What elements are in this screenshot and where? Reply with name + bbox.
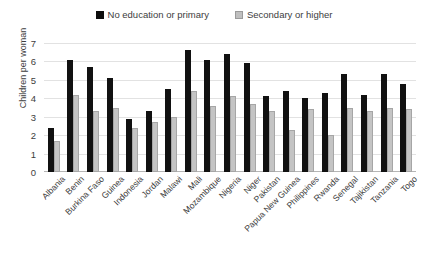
y-tick-label-7: 7	[12, 39, 36, 48]
bar-secondary-or-higher	[73, 95, 79, 172]
bar-group	[357, 43, 377, 172]
bar-secondary-or-higher	[328, 135, 334, 172]
bar-secondary-or-higher	[289, 130, 295, 172]
bar-group	[338, 43, 358, 172]
bar-secondary-or-higher	[152, 122, 158, 172]
legend-entry-secondary-or-higher: Secondary or higher	[235, 10, 333, 20]
plot-area: 01234567	[44, 43, 416, 172]
chart-legend: No education or primary Secondary or hig…	[0, 8, 428, 22]
bar-group	[240, 43, 260, 172]
bar-group	[201, 43, 221, 172]
bar-secondary-or-higher	[54, 141, 60, 172]
bar-secondary-or-higher	[132, 128, 138, 172]
bar-group	[220, 43, 240, 172]
y-tick-label-1: 1	[12, 150, 36, 159]
bar-group	[103, 43, 123, 172]
bar-secondary-or-higher	[308, 109, 314, 172]
bar-group	[161, 43, 181, 172]
bar-group	[299, 43, 319, 172]
legend-swatch-dark-square-icon	[96, 11, 104, 19]
bar-group	[64, 43, 84, 172]
legend-label-series-1: No education or primary	[108, 10, 209, 20]
bar-group	[396, 43, 416, 172]
x-tick-label: Togo	[399, 174, 419, 194]
y-tick-label-4: 4	[12, 94, 36, 103]
bar-group	[44, 43, 64, 172]
legend-label-series-2: Secondary or higher	[247, 10, 333, 20]
bar-group	[83, 43, 103, 172]
bar-chart: No education or primary Secondary or hig…	[0, 0, 428, 267]
y-tick-label-5: 5	[12, 76, 36, 85]
legend-entry-no-education-or-primary: No education or primary	[96, 10, 209, 20]
x-axis-labels: AlbaniaBeninBurkina FasoGuineaIndonesiaJ…	[44, 174, 416, 264]
bar-secondary-or-higher	[387, 108, 393, 173]
bar-secondary-or-higher	[191, 91, 197, 172]
y-tick-label-6: 6	[12, 57, 36, 66]
bar-group	[122, 43, 142, 172]
bar-group	[142, 43, 162, 172]
bar-secondary-or-higher	[250, 104, 256, 172]
bar-secondary-or-higher	[367, 111, 373, 172]
bar-group	[259, 43, 279, 172]
bar-secondary-or-higher	[171, 117, 177, 172]
bar-group	[181, 43, 201, 172]
bar-secondary-or-higher	[113, 108, 119, 173]
bar-secondary-or-higher	[93, 111, 99, 172]
y-tick-label-3: 3	[12, 113, 36, 122]
bar-group	[279, 43, 299, 172]
legend-swatch-light-square-icon	[235, 11, 243, 19]
bar-secondary-or-higher	[406, 109, 412, 172]
bar-group	[318, 43, 338, 172]
bar-secondary-or-higher	[269, 111, 275, 172]
bar-groups	[44, 43, 416, 172]
bar-group	[377, 43, 397, 172]
x-tick-label: Albania	[40, 174, 67, 201]
bar-secondary-or-higher	[347, 108, 353, 173]
y-tick-label-0: 0	[12, 168, 36, 177]
bar-secondary-or-higher	[210, 106, 216, 172]
y-tick-label-2: 2	[12, 131, 36, 140]
bar-secondary-or-higher	[230, 96, 236, 172]
